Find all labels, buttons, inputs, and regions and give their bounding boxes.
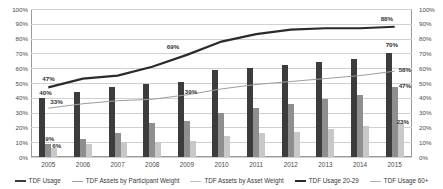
y-axis-tick-label-left: 50% [1,80,28,87]
legend-swatch-icon [72,181,83,182]
y-axis-tick-label-right: 40% [419,94,443,101]
y-axis-tick-label-right: 30% [419,109,443,116]
y-axis-tick-label-left: 70% [1,50,28,57]
y-axis-right: 100%90%80%70%60%50%40%30%20%10%0% [414,9,442,157]
data-label: 39% [185,88,197,95]
y-axis-tick-label-right: 10% [419,139,443,146]
y-axis-tick-label-left: 30% [1,109,28,116]
y-axis-tick-label-left: 20% [1,124,28,131]
line-series-layer [31,9,412,157]
legend-item[interactable]: TDF Assets by Participant Weight [72,177,180,185]
legend-swatch-icon [190,181,201,182]
chart-legend: TDF UsageTDF Assets by Participant Weigh… [0,175,443,187]
data-label: 47% [42,75,54,82]
y-axis-tick-label-left: 0% [1,154,28,161]
y-axis-left: 100%90%80%70%60%50%40%30%20%10%0% [0,9,28,157]
y-axis-tick-label-right: 90% [419,20,443,27]
y-axis-tick-label-left: 60% [1,65,28,72]
y-axis-tick-label-left: 40% [1,94,28,101]
chart-container: 100%90%80%70%60%50%40%30%20%10%0% 100%90… [0,0,443,189]
y-axis-tick-label-right: 0% [419,154,443,161]
y-axis-tick-label-right: 100% [419,6,443,13]
y-axis-tick-label-left: 10% [1,139,28,146]
y-axis-tick-label-right: 80% [419,35,443,42]
legend-swatch-icon [15,180,26,182]
y-axis-tick-label-left: 90% [1,20,28,27]
data-label: 69% [167,43,179,50]
data-label: 23% [397,118,409,125]
legend-swatch-icon [370,181,381,182]
legend-label: TDF Usage [29,177,61,185]
data-label: 47% [399,82,411,89]
legend-item[interactable]: TDF Usage 20-29 [295,177,359,185]
legend-item[interactable]: TDF Usage 60+ [370,177,429,185]
data-label: 6% [52,142,61,149]
y-axis-tick-label-right: 50% [419,80,443,87]
y-axis-tick-label-right: 70% [419,50,443,57]
data-label: 70% [386,41,398,48]
legend-label: TDF Assets by Asset Weight [204,177,283,185]
legend-item[interactable]: TDF Usage [15,177,61,185]
gridline [31,157,412,158]
data-label: 9% [45,135,54,142]
data-label: 58% [399,66,411,73]
legend-label: TDF Usage 60+ [384,177,429,185]
plot-area: 40%9%6%47%33%39%69%88%70%58%47%23% [31,9,412,157]
y-axis-tick-label-right: 60% [419,65,443,72]
legend-label: TDF Usage 20-29 [309,177,359,185]
legend-swatch-icon [295,180,306,182]
y-axis-tick-label-left: 80% [1,35,28,42]
y-axis-tick-label-right: 20% [419,124,443,131]
legend-item[interactable]: TDF Assets by Asset Weight [190,177,283,185]
y-axis-tick-label-left: 100% [1,6,28,13]
line-series [48,27,394,88]
data-label: 88% [381,15,393,22]
data-label: 40% [39,89,51,96]
x-axis-tick-label: 2015 [375,161,415,169]
data-label: 33% [50,98,62,105]
legend-label: TDF Assets by Participant Weight [86,177,180,185]
